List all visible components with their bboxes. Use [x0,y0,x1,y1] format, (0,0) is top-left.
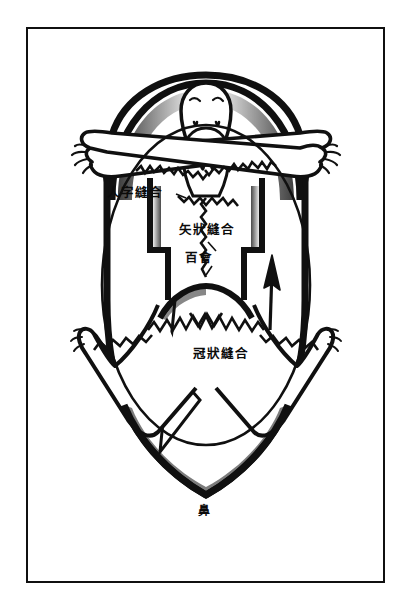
label-lambdoid-suture: 人字縫合 [107,187,163,200]
upward-arrow [264,255,280,330]
label-coronal-suture: 冠狀縫合 [193,348,249,361]
page-canvas: 人字縫合 矢狀縫合 百會 冠狀縫合 鼻 [0,0,412,607]
label-nose: 鼻 [198,505,211,517]
label-sagittal-suture: 矢狀縫合 [179,224,235,237]
label-baihui-point: 百會 [185,252,213,265]
